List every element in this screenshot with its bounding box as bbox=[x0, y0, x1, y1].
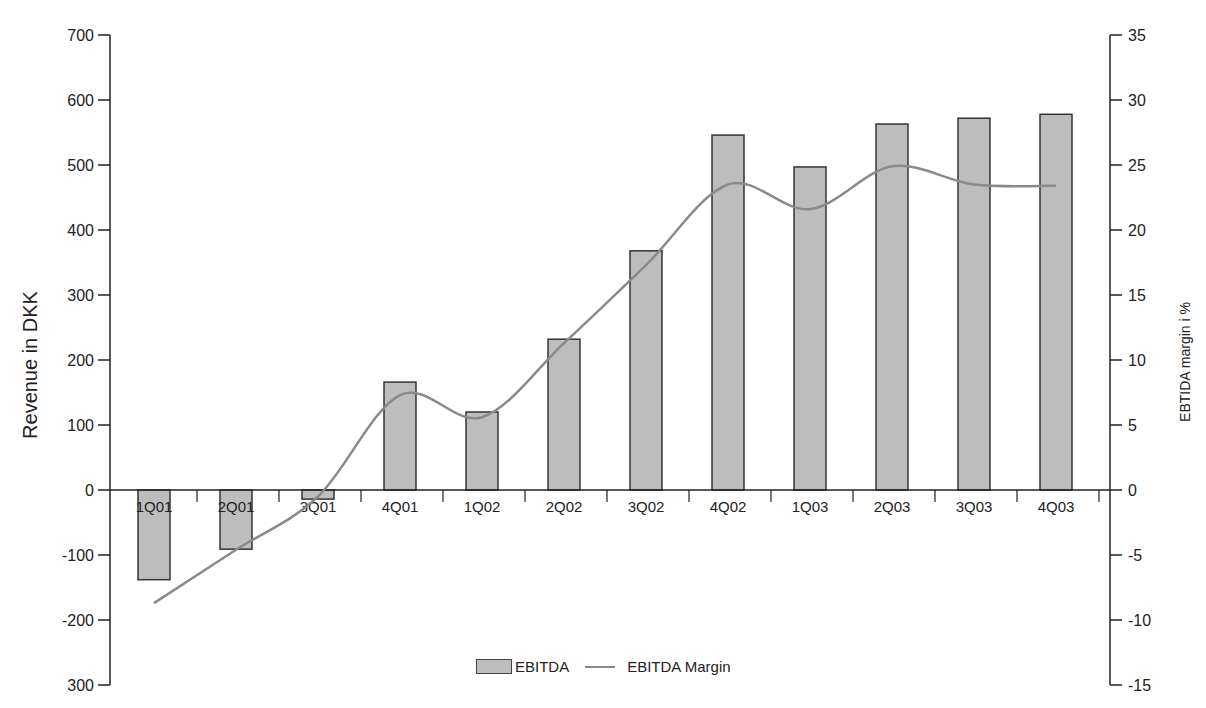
bar-4Q03 bbox=[1040, 114, 1072, 490]
ebitda-margin-line bbox=[154, 166, 1056, 603]
legend-bar-swatch bbox=[476, 659, 512, 674]
x-axis-tick-label: 2Q01 bbox=[218, 498, 255, 515]
legend-line-label: EBITDA Margin bbox=[627, 658, 730, 675]
left-axis-tick-label: -100 bbox=[62, 547, 94, 564]
left-axis-tick-label: 300 bbox=[67, 287, 94, 304]
left-axis-tick-label: 300 bbox=[67, 677, 94, 694]
left-axis-tick-label: 500 bbox=[67, 157, 94, 174]
x-axis-tick-label: 2Q03 bbox=[874, 498, 911, 515]
left-axis-tick-label: 600 bbox=[67, 92, 94, 109]
left-axis-tick-label: 700 bbox=[67, 27, 94, 44]
right-axis-tick-label: 35 bbox=[1128, 27, 1146, 44]
right-axis-tick-label: -15 bbox=[1128, 677, 1151, 694]
bar-2Q02 bbox=[548, 339, 580, 490]
legend: EBITDA EBITDA Margin bbox=[476, 658, 731, 675]
right-axis-title: EBTIDA margin i % bbox=[1177, 302, 1193, 422]
right-axis-tick-label: 20 bbox=[1128, 222, 1146, 239]
bar-1Q03 bbox=[794, 167, 826, 490]
x-axis-tick-label: 4Q01 bbox=[382, 498, 419, 515]
x-axis-tick-label: 1Q03 bbox=[792, 498, 829, 515]
bar-4Q01 bbox=[384, 382, 416, 490]
left-axis-title: Revenue in DKK bbox=[19, 291, 42, 439]
bar-3Q03 bbox=[958, 118, 990, 490]
x-axis-tick-label: 4Q02 bbox=[710, 498, 747, 515]
left-axis-tick-label: -200 bbox=[62, 612, 94, 629]
right-axis-tick-label: 0 bbox=[1128, 482, 1137, 499]
x-axis-tick-label: 3Q03 bbox=[956, 498, 993, 515]
right-axis-tick-label: -10 bbox=[1128, 612, 1151, 629]
chart-plot-area: 7006005004003002001000-100-2003003530252… bbox=[0, 0, 1206, 708]
x-axis-tick-label: 3Q02 bbox=[628, 498, 665, 515]
right-axis-tick-label: -5 bbox=[1128, 547, 1142, 564]
right-axis-tick-label: 10 bbox=[1128, 352, 1146, 369]
legend-bar-label: EBITDA bbox=[515, 658, 569, 675]
left-axis-tick-label: 0 bbox=[85, 482, 94, 499]
right-axis-tick-label: 30 bbox=[1128, 92, 1146, 109]
legend-line-swatch bbox=[585, 666, 615, 668]
bar-4Q02 bbox=[712, 135, 744, 490]
left-axis-tick-label: 100 bbox=[67, 417, 94, 434]
chart: 7006005004003002001000-100-2003003530252… bbox=[0, 0, 1206, 708]
right-axis-tick-label: 25 bbox=[1128, 157, 1146, 174]
left-axis-tick-label: 200 bbox=[67, 352, 94, 369]
bar-3Q02 bbox=[630, 251, 662, 490]
x-axis-tick-label: 1Q01 bbox=[136, 498, 173, 515]
left-axis-tick-label: 400 bbox=[67, 222, 94, 239]
right-axis-tick-label: 15 bbox=[1128, 287, 1146, 304]
bar-1Q02 bbox=[466, 412, 498, 490]
x-axis-tick-label: 2Q02 bbox=[546, 498, 583, 515]
right-axis-tick-label: 5 bbox=[1128, 417, 1137, 434]
x-axis-tick-label: 4Q03 bbox=[1038, 498, 1075, 515]
x-axis-tick-label: 1Q02 bbox=[464, 498, 501, 515]
bar-2Q03 bbox=[876, 124, 908, 490]
